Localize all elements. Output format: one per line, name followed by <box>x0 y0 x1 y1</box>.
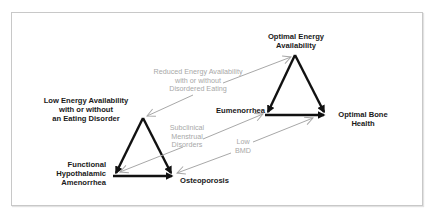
transition-arrow-menstrual-lower <box>120 147 183 172</box>
transition-arrow-bone-lower <box>177 153 231 173</box>
arrow-energy-to-bone-health <box>295 55 324 112</box>
label-reduced-energy-availability: Reduced Energy Availability with or with… <box>142 68 254 94</box>
transition-arrow-energy-lower <box>147 95 193 116</box>
label-low-energy-availability: Low Energy Availability with or without … <box>30 96 142 123</box>
label-low-bmd: Low BMD <box>228 138 258 155</box>
label-optimal-energy-availability: Optimal Energy Availability <box>255 32 337 50</box>
label-eumenorrhea: Eumenorrhea <box>205 106 265 115</box>
label-functional-hypothalamic-amenorrhea: Functional Hypothalamic Amenorrhea <box>50 160 106 187</box>
label-optimal-bone-health: Optimal Bone Health <box>328 110 398 128</box>
transition-arrow-bone-upper <box>253 118 313 142</box>
label-osteoporosis: Osteoporosis <box>180 176 242 185</box>
label-subclinical-menstrual-disorders: Subclinical Menstrual Disorders <box>162 124 212 150</box>
arrow-energy-to-eumenorrhea <box>268 55 295 112</box>
transition-arrow-menstrual-upper <box>203 114 263 139</box>
